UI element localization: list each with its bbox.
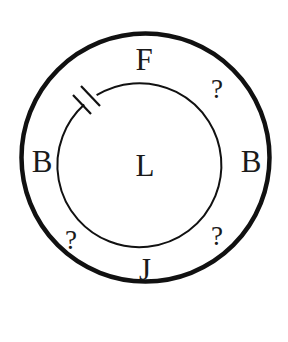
label-top-right: ? — [211, 74, 223, 104]
label-center: L — [136, 148, 155, 183]
label-top: F — [135, 42, 152, 77]
label-bottom: J — [139, 252, 151, 287]
label-bottom-right: ? — [211, 221, 223, 251]
break-tick-1 — [73, 95, 91, 114]
label-right: B — [241, 144, 262, 179]
concentric-circles-diagram: F ? B L B ? ? J — [0, 0, 288, 342]
label-left: B — [32, 144, 53, 179]
label-bottom-left: ? — [65, 225, 77, 255]
